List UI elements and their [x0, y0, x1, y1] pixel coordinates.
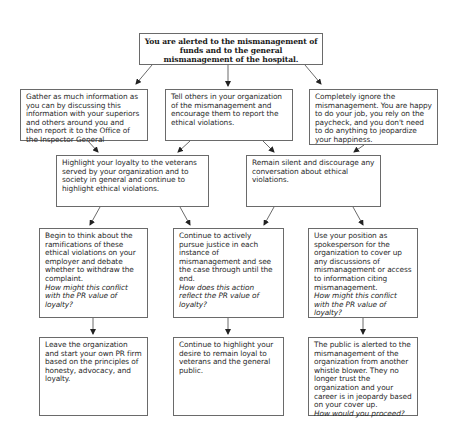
node-root-text: You are alerted to the mismanagement of … [145, 37, 318, 64]
node-cover-up: Use your position as spokesperson for th… [308, 228, 418, 318]
node-ignore-text: Completely ignore the mismanagement. You… [315, 92, 432, 144]
flowchart: You are alerted to the mismanagement of … [0, 0, 462, 432]
node-coverup-question: How might this conflict with the PR valu… [314, 292, 412, 318]
node-root: You are alerted to the mismanagement of … [139, 33, 323, 65]
node-gather-information: Gather as much information as you can by… [20, 89, 148, 141]
node-pursue-justice: Continue to actively pursue justice in e… [173, 228, 284, 318]
node-begin-to-think: Begin to think about the ramifications o… [39, 228, 148, 318]
node-begin-text: Begin to think about the ramifications o… [45, 231, 136, 283]
node-public-alerted: The public is alerted to the mismanageme… [308, 337, 418, 416]
node-highlight-loyalty: Highlight your loyalty to the veterans s… [56, 155, 209, 207]
node-tell-text: Tell others in your organization of the … [171, 92, 282, 127]
node-pursue-text: Continue to actively pursue justice in e… [179, 231, 272, 283]
node-leave-text: Leave the organization and start your ow… [45, 340, 142, 383]
node-pursue-question: How does this action reflect the PR valu… [179, 284, 278, 310]
node-begin-question: How might this conflict with the PR valu… [45, 284, 142, 310]
node-continue-text: Continue to highlight your desire to rem… [179, 340, 273, 375]
node-continue-highlight: Continue to highlight your desire to rem… [173, 337, 284, 416]
node-ignore: Completely ignore the mismanagement. You… [309, 89, 438, 145]
node-public-text: The public is alerted to the mismanageme… [314, 340, 412, 409]
node-leave-organization: Leave the organization and start your ow… [39, 337, 148, 416]
node-tell-others: Tell others in your organization of the … [165, 89, 293, 141]
node-silent-text: Remain silent and discourage any convers… [252, 158, 374, 184]
node-coverup-text: Use your position as spokesperson for th… [314, 231, 411, 292]
node-remain-silent: Remain silent and discourage any convers… [246, 155, 381, 207]
node-highlight-text: Highlight your loyalty to the veterans s… [62, 158, 197, 193]
node-public-question: How would you proceed? [314, 410, 412, 419]
node-gather-text: Gather as much information as you can by… [26, 92, 139, 144]
